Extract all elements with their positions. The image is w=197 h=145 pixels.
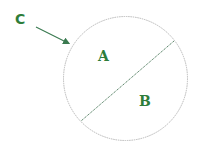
pointer-arrow-icon	[36, 27, 68, 43]
circle-diagram: C A B	[0, 0, 197, 145]
circle-boundary	[64, 17, 188, 141]
dividing-chord	[81, 41, 174, 121]
label-region-a: A	[97, 48, 110, 64]
label-c: C	[15, 11, 25, 27]
label-region-b: B	[139, 93, 151, 109]
